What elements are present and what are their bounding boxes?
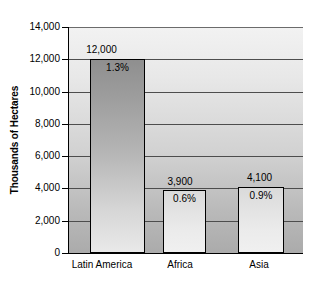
y-tick-label-6000: 6,000 [0, 151, 60, 161]
bar-chart: Thousands of Hectares 14,000 12,000 10,0… [0, 0, 315, 284]
y-tick-label-10000: 10,000 [0, 87, 60, 97]
y-tick-label-8000: 8,000 [0, 119, 60, 129]
plot-area: 1.3% 0.6% 0.9% [68, 27, 303, 254]
y-tick-label-2000: 2,000 [0, 216, 60, 226]
bar-percent-label-latin-america: 1.3% [91, 62, 144, 73]
y-axis-tick-labels: 14,000 12,000 10,000 8,000 6,000 4,000 2… [0, 27, 60, 253]
gridline-14000 [69, 27, 303, 28]
bar-percent-label-africa: 0.6% [164, 193, 205, 204]
y-tick-label-12000: 12,000 [0, 54, 60, 64]
y-tick-label-0: 0 [0, 248, 60, 258]
category-label-africa: Africa [152, 259, 208, 270]
bar-value-label-latin-america: 12,000 [74, 44, 129, 55]
y-tick-label-4000: 4,000 [0, 183, 60, 193]
bar-value-label-asia: 4,100 [234, 172, 285, 183]
bar-africa[interactable]: 0.6% [163, 190, 206, 253]
category-label-asia: Asia [233, 259, 285, 270]
category-label-latin-america: Latin America [66, 259, 138, 270]
bar-percent-label-asia: 0.9% [239, 190, 283, 201]
bar-latin-america[interactable]: 1.3% [90, 59, 145, 253]
bar-asia[interactable]: 0.9% [238, 187, 284, 253]
y-tick-label-14000: 14,000 [0, 22, 60, 32]
bar-value-label-africa: 3,900 [156, 176, 204, 187]
